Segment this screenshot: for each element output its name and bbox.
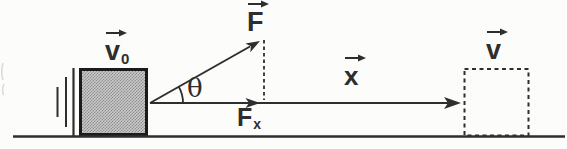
force-x-symbol: F <box>237 105 252 130</box>
angle-theta-label: θ <box>187 75 203 101</box>
final-position-dashed-box <box>465 69 529 136</box>
diagram-line-art <box>0 0 567 149</box>
angle-symbol: θ <box>187 75 203 101</box>
force-arrowhead <box>245 41 260 52</box>
scan-artifact <box>2 63 4 95</box>
horizontal-force-component-label: F x <box>237 105 261 130</box>
angle-arc <box>179 87 183 103</box>
applied-force-symbol: F <box>247 9 264 36</box>
final-velocity-symbol: v <box>486 37 501 64</box>
applied-force-label: F <box>247 0 269 36</box>
physics-diagram: v 0 F θ F x x <box>0 0 567 149</box>
initial-velocity-subscript: 0 <box>121 51 129 66</box>
displacement-label: x <box>344 54 366 89</box>
initial-velocity-symbol: v <box>105 38 120 65</box>
force-x-subscript: x <box>253 117 261 131</box>
final-velocity-label: v <box>486 28 508 64</box>
initial-velocity-label: v 0 <box>105 29 129 65</box>
displacement-symbol: x <box>344 63 358 89</box>
